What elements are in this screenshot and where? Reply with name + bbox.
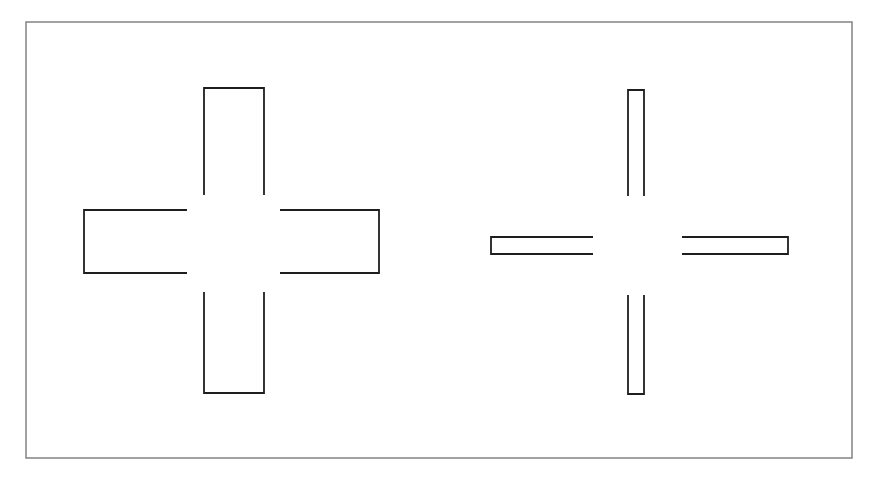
background [0, 0, 877, 478]
diagram-canvas [0, 0, 877, 478]
